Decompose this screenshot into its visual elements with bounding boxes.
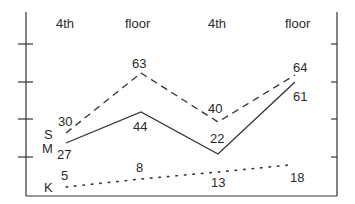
data-label: 5: [61, 168, 68, 183]
data-label: 64: [293, 60, 307, 75]
column-header: floor: [125, 16, 151, 31]
data-label: 40: [208, 101, 222, 116]
data-label: 61: [293, 89, 307, 104]
column-header: floor: [285, 16, 311, 31]
line-chart: 4th floor 4th floor S M K 30 63 40 64 27…: [0, 0, 355, 204]
data-label: 44: [133, 119, 147, 134]
data-label: 18: [290, 170, 304, 185]
series-k-line: [66, 165, 290, 187]
column-header: 4th: [208, 16, 226, 31]
series-label-m: M: [42, 141, 53, 156]
data-label: 22: [210, 131, 224, 146]
series-label-k: K: [44, 180, 53, 195]
data-label: 8: [136, 160, 143, 175]
series-label-s: S: [44, 127, 53, 142]
data-label: 30: [58, 114, 72, 129]
data-label: 27: [57, 147, 71, 162]
series-m-line: [66, 82, 295, 154]
column-header: 4th: [56, 16, 74, 31]
data-label: 63: [132, 56, 146, 71]
data-label: 13: [211, 175, 225, 190]
series-s-line: [66, 73, 295, 133]
right-ticks: [331, 44, 337, 157]
